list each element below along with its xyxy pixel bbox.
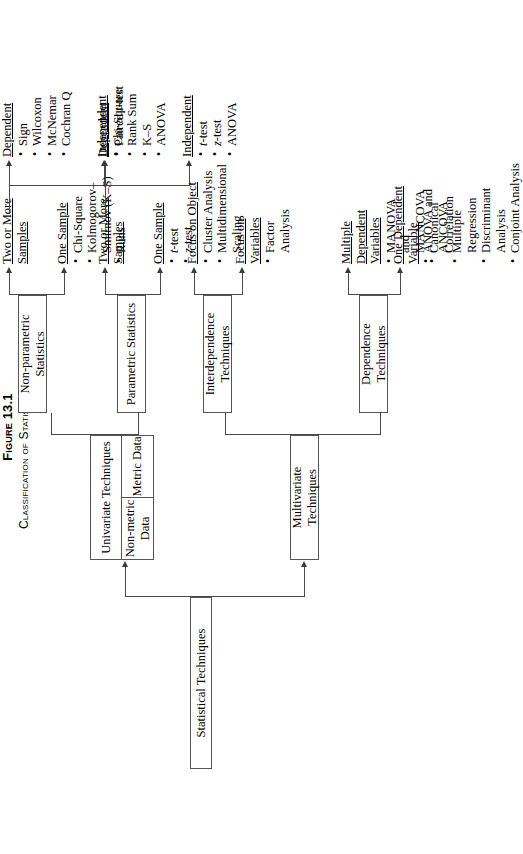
leaf-focus-on-object-header: Focus on Object: [185, 148, 200, 264]
connector-dependence-to-multiple-dv: [348, 273, 349, 295]
leaf-multiple-dv-header: Multiple Dependent Variables: [339, 188, 383, 264]
node-statistical-techniques-label: Statistical Techniques: [194, 629, 209, 738]
arrow-to-np-one-sample: [61, 267, 67, 273]
list-item: Discriminant Analysis: [479, 160, 508, 253]
list-item: Chi-Square: [71, 168, 86, 253]
connector-parametric-to-two-or-more: [105, 273, 106, 295]
list-item: Paired t-test: [112, 71, 127, 146]
node-metric-data: Metric Data: [122, 436, 153, 497]
connector-nonparametric-split-vertical: [9, 294, 64, 295]
leaf-p-dependent-list: Paired t-test: [112, 71, 127, 157]
list-item: Sign: [16, 71, 31, 146]
leaf-focus-on-variables-header: Focus on Variables: [233, 200, 262, 264]
connector-p-two-or-more-split-vertical: [105, 185, 189, 186]
connector-root-stem-vertical: [125, 596, 304, 597]
leaf-p-two-or-more-samples: Two or More Samples: [96, 192, 126, 264]
leaf-one-dv-header: One Dependent Variable: [391, 160, 420, 264]
list-item: K–S: [140, 71, 155, 146]
connector-nonparametric-to-two-or-more: [9, 273, 10, 295]
arrow-to-p-two-or-more: [102, 267, 108, 273]
list-item: t-test: [167, 194, 182, 253]
list-item: Wilcoxon: [30, 71, 45, 146]
connector-univariate-to-parametric: [138, 413, 139, 435]
arrow-to-univariate: [122, 561, 128, 567]
node-dependence-techniques: Dependence Techniques: [359, 295, 388, 413]
list-item: Cochran Q: [59, 71, 74, 146]
arrow-to-one-dependent-variable: [397, 267, 403, 273]
list-item: t-test: [196, 71, 211, 146]
node-statistical-techniques: Statistical Techniques: [190, 597, 212, 769]
arrow-to-focus-on-variables: [239, 267, 245, 273]
node-metric-data-label: Metric Data: [130, 436, 144, 496]
arrow-to-p-one-sample: [157, 267, 163, 273]
leaf-p-two-or-more-header: Two or More Samples: [96, 192, 125, 264]
connector-nonparametric-to-one-sample: [64, 273, 65, 295]
connector-multivariate-to-dependence: [380, 413, 381, 435]
node-interdependence-techniques: Interdependence Techniques: [203, 295, 232, 413]
node-nonparametric-statistics: Non-parametric Statistics: [18, 295, 47, 413]
leaf-np-dependent: Dependent Sign Wilcoxon McNemar Cochran …: [0, 71, 74, 157]
node-dependence-techniques-label: Dependence Techniques: [359, 298, 389, 410]
arrow-to-multiple-dependent-variables: [345, 267, 351, 273]
connector-np-to-dependent: [9, 166, 10, 186]
leaf-one-dv-list: ANOVA and ANCOVA Multiple Regression Dis…: [421, 160, 523, 264]
leaf-p-one-sample-header: One Sample: [151, 194, 166, 264]
list-item: ANOVA and ANCOVA: [421, 160, 450, 253]
node-univariate-techniques-label: Univariate Techniques: [99, 441, 113, 553]
node-nonmetric-data-label: Non-metric Data: [123, 498, 152, 559]
arrow-to-np-dependent: [6, 160, 12, 166]
list-item: Factor Analysis: [263, 200, 292, 253]
node-univariate-data-types: Non-metric Data Metric Data: [122, 436, 153, 559]
list-item: z-test: [210, 71, 225, 146]
list-item: Rank Sum: [125, 71, 140, 146]
list-item: Conjoint Analysis: [508, 160, 523, 253]
list-item: McNemar: [45, 71, 60, 146]
node-parametric-statistics-label: Parametric Statistics: [124, 303, 139, 405]
leaf-p-independent: Independent t-test z-test ANOVA: [180, 71, 239, 157]
connector-univariate-to-nonparametric: [51, 413, 52, 435]
leaf-np-dependent-list: Sign Wilcoxon McNemar Cochran Q: [16, 71, 74, 157]
node-interdependence-techniques-label: Interdependence Techniques: [203, 298, 233, 410]
connector-multivariate-split-vertical: [225, 434, 380, 435]
list-item: Cluster Analysis: [201, 148, 216, 253]
connector-p-to-dependent: [105, 166, 106, 186]
connector-dependence-to-one-dv: [400, 273, 401, 295]
leaf-focus-on-variables: Focus on Variables Factor Analysis: [233, 200, 292, 264]
leaf-p-dependent: Dependent Paired t-test: [96, 71, 126, 157]
arrow-to-multivariate: [301, 561, 307, 567]
node-multivariate-techniques-label: Multivariate Techniques: [290, 438, 320, 557]
leaf-np-dependent-header: Dependent: [0, 71, 15, 157]
connector-univariate-split-vertical: [51, 434, 138, 435]
connector-parametric-to-one-sample: [160, 273, 161, 295]
connector-root-stem-top: [125, 567, 126, 597]
connector-np-two-or-more-stem: [9, 185, 10, 214]
node-parametric-statistics: Parametric Statistics: [117, 295, 146, 413]
list-item: Multiple Regression: [450, 160, 479, 253]
list-item: ANOVA: [154, 71, 169, 146]
leaf-np-two-or-more-samples: Two or More Samples: [0, 192, 30, 264]
connector-interdependence-to-focus-object: [194, 273, 195, 295]
arrow-to-focus-on-object: [191, 267, 197, 273]
leaf-np-one-sample-header: One Sample: [55, 168, 70, 264]
leaf-focus-on-variables-list: Factor Analysis: [263, 200, 292, 264]
leaf-one-dependent-variable: One Dependent Variable ANOVA and ANCOVA …: [391, 160, 523, 264]
connector-p-two-or-more-stem: [105, 185, 106, 214]
connector-multivariate-to-interdependence: [225, 413, 226, 435]
list-item: ANOVA: [225, 71, 240, 146]
node-univariate-techniques: Univariate Techniques Non-metric Data Me…: [90, 435, 154, 560]
connector-interdependence-to-focus-variables: [242, 273, 243, 295]
leaf-np-two-or-more-header: Two or More Samples: [0, 192, 29, 264]
node-multivariate-techniques: Multivariate Techniques: [290, 435, 319, 560]
node-nonparametric-statistics-label: Non-parametric Statistics: [18, 298, 48, 410]
connector-root-stem-bottom: [304, 567, 305, 597]
node-nonmetric-data: Non-metric Data: [122, 497, 153, 559]
connector-interdependence-split-vertical: [194, 294, 242, 295]
leaf-p-independent-list: t-test z-test ANOVA: [196, 71, 240, 157]
connector-dependence-split-vertical: [348, 294, 400, 295]
arrow-to-p-dependent: [102, 160, 108, 166]
connector-parametric-split-vertical: [105, 294, 160, 295]
arrow-to-np-two-or-more: [6, 267, 12, 273]
leaf-p-dependent-header: Dependent: [96, 71, 111, 157]
